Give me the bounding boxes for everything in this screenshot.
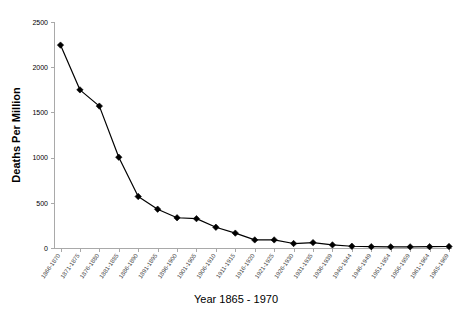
y-tick-label: 500 <box>36 200 48 207</box>
chart-container: 0 500 1000 1500 2000 2500 Deaths Per Mil… <box>0 0 457 319</box>
line-chart: 0 500 1000 1500 2000 2500 Deaths Per Mil… <box>0 0 457 319</box>
y-tick-label: 1500 <box>32 109 48 116</box>
y-tick-label: 2500 <box>32 19 48 26</box>
y-tick-label: 0 <box>44 245 48 252</box>
y-axis-title: Deaths Per Million <box>10 87 22 183</box>
x-axis-title: Year 1865 - 1970 <box>194 293 278 305</box>
y-tick-label: 1000 <box>32 154 48 161</box>
y-tick-label: 2000 <box>32 64 48 71</box>
